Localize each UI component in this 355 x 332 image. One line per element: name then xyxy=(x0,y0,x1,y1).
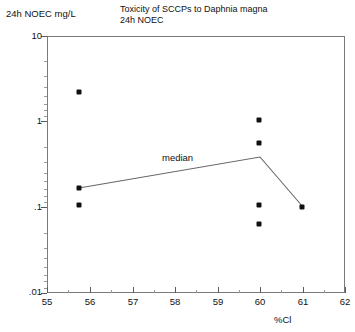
x-tick-label-59: 59 xyxy=(213,296,224,307)
x-tick-label-61: 61 xyxy=(298,296,309,307)
y-tick-label-10: 10 xyxy=(10,30,42,41)
chart-title-line2: 24h NOEC xyxy=(120,15,268,26)
chart-title: Toxicity of SCCPs to Daphnia magna 24h N… xyxy=(120,4,268,26)
y-tick-0-01 xyxy=(41,293,47,294)
x-tick-label-62: 62 xyxy=(340,296,351,307)
x-tick-label-55: 55 xyxy=(42,296,53,307)
plot-area xyxy=(47,36,345,293)
chart-title-line1: Toxicity of SCCPs to Daphnia magna xyxy=(120,4,268,14)
chart-screenshot: 24h NOEC mg/L Toxicity of SCCPs to Daphn… xyxy=(0,0,355,332)
x-tick-label-60: 60 xyxy=(255,296,266,307)
y-tick-label-0-1: .1 xyxy=(10,201,42,212)
x-tick-label-57: 57 xyxy=(128,296,139,307)
y-tick-label-0-01: .01 xyxy=(10,286,42,297)
x-axis-label: %Cl xyxy=(274,314,291,325)
x-tick-62 xyxy=(345,287,346,293)
y-axis-label: 24h NOEC mg/L xyxy=(6,8,76,19)
x-tick-label-56: 56 xyxy=(85,296,96,307)
x-tick-label-58: 58 xyxy=(170,296,181,307)
y-tick-label-1: 1 xyxy=(10,115,42,126)
